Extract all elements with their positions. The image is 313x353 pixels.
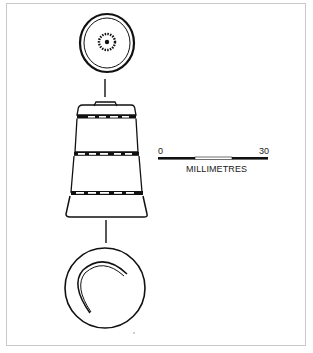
side-profile (66, 102, 147, 217)
scale-unit-label: MILLIMETRES (186, 165, 247, 174)
artefact-drawing (0, 0, 313, 353)
top-view (80, 14, 134, 72)
scale-end-label: 30 (259, 147, 269, 156)
bottom-view (65, 248, 145, 328)
scale-start-label: 0 (158, 147, 163, 156)
scale-bar (158, 157, 268, 160)
speck (133, 332, 134, 333)
